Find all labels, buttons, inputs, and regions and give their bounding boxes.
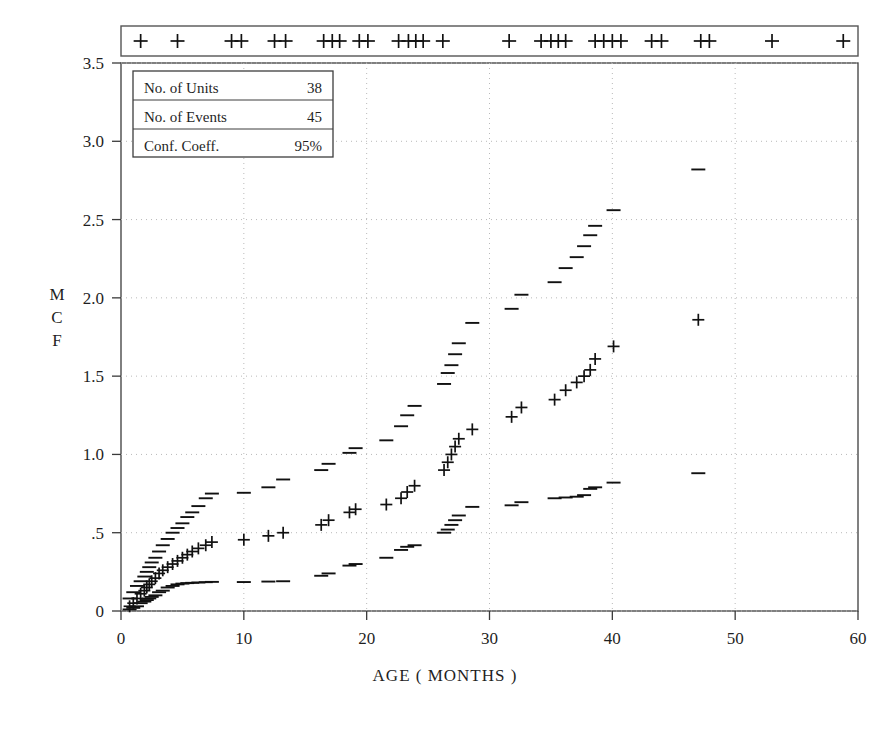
x-tick-label: 20 xyxy=(358,629,375,648)
legend-label-units: No. of Units xyxy=(144,80,219,96)
x-tick-label: 10 xyxy=(235,629,252,648)
y-axis-title-char: M xyxy=(49,285,64,304)
legend-value-units: 38 xyxy=(307,80,322,96)
x-tick-label: 40 xyxy=(604,629,621,648)
legend-label-events: No. of Events xyxy=(144,109,227,125)
y-tick-label: 0 xyxy=(96,602,105,621)
legend-label-conf: Conf. Coeff. xyxy=(144,138,219,154)
y-tick-label: 2.0 xyxy=(83,289,104,308)
y-tick-label: 1.0 xyxy=(83,445,104,464)
y-axis-title-char: F xyxy=(52,331,61,350)
y-tick-label: 3.5 xyxy=(83,54,104,73)
y-tick-label: .5 xyxy=(91,524,104,543)
legend-value-events: 45 xyxy=(307,109,322,125)
x-tick-label: 60 xyxy=(850,629,867,648)
y-tick-label: 3.0 xyxy=(83,132,104,151)
y-tick-label: 2.5 xyxy=(83,211,104,230)
x-axis-title: AGE ( MONTHS ) xyxy=(373,666,518,685)
mcf-chart: 0102030405060 0.51.01.52.02.53.03.5 MCF … xyxy=(0,0,890,729)
statistics-legend-box: No. of Units 38 No. of Events 45 Conf. C… xyxy=(133,71,333,157)
chart-svg: 0102030405060 0.51.01.52.02.53.03.5 MCF … xyxy=(0,0,890,729)
y-axis-title-char: C xyxy=(51,308,62,327)
legend-value-conf: 95% xyxy=(295,138,323,154)
y-tick-label: 1.5 xyxy=(83,367,104,386)
x-tick-label: 30 xyxy=(481,629,498,648)
x-tick-label: 0 xyxy=(117,629,126,648)
x-tick-label: 50 xyxy=(727,629,744,648)
